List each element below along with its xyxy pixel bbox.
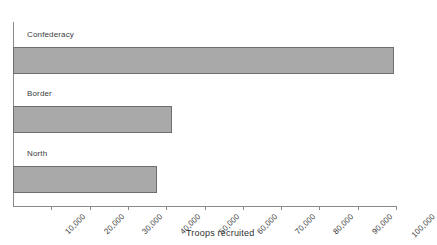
x-tick-label: 90,000	[370, 212, 394, 236]
x-tick-label: 100,000	[410, 212, 437, 239]
x-tick-label: 20,000	[102, 212, 126, 236]
x-tick-label: 80,000	[332, 212, 356, 236]
x-tick-label: 60,000	[255, 212, 279, 236]
x-tick-mark	[243, 206, 244, 210]
x-tick-mark	[358, 206, 359, 210]
x-tick-label: 30,000	[140, 212, 164, 236]
x-tick-mark	[396, 206, 397, 210]
x-tick-mark	[90, 206, 91, 210]
bar-north[interactable]	[13, 166, 157, 193]
x-tick-label: 10,000	[64, 212, 88, 236]
bar-confederacy[interactable]	[13, 47, 394, 74]
x-axis-title: Troops recruited	[186, 228, 254, 238]
bar-category-label: Border	[27, 89, 52, 98]
bar-category-label: Confederacy	[27, 30, 74, 39]
x-tick-mark	[281, 206, 282, 210]
x-tick-mark	[128, 206, 129, 210]
x-tick-mark	[319, 206, 320, 210]
x-tick-label: 70,000	[293, 212, 317, 236]
x-tick-mark	[51, 206, 52, 210]
bar-border[interactable]	[13, 106, 172, 133]
x-tick-mark	[205, 206, 206, 210]
x-tick-mark	[166, 206, 167, 210]
bar-category-label: North	[27, 149, 47, 158]
